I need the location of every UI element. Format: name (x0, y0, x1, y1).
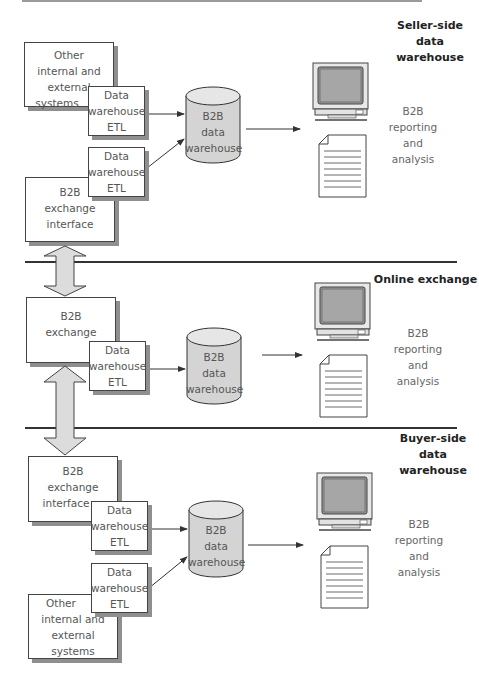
warehouse-label: B2B data warehouse (188, 522, 244, 570)
section-divider (25, 427, 457, 429)
reporting-label: B2B reporting and analysis (389, 516, 449, 580)
flow-arrow (147, 139, 184, 168)
flow-arrow (149, 557, 187, 588)
bidirectional-arrow-icon (44, 246, 86, 296)
database-cylinder-icon: B2B data warehouse (186, 327, 242, 405)
database-cylinder-icon: B2B data warehouse (188, 500, 244, 578)
report-document-icon (319, 354, 369, 418)
etl-box: Data warehouse ETL (91, 501, 148, 551)
reporting-label: B2B reporting and analysis (383, 103, 443, 167)
etl-box: Data warehouse ETL (89, 341, 146, 391)
report-document-icon (320, 545, 370, 609)
etl-box: Data warehouse ETL (88, 147, 145, 197)
etl-box: Data warehouse ETL (91, 563, 148, 613)
top-rule (22, 0, 422, 2)
section-title-seller-side: Seller-side data warehouse (384, 18, 476, 66)
report-document-icon (318, 134, 368, 198)
section-divider (25, 261, 457, 263)
warehouse-label: B2B data warehouse (186, 349, 242, 397)
database-cylinder-icon: B2B data warehouse (185, 86, 241, 164)
computer-monitor-icon (316, 472, 374, 532)
etl-box: Data warehouse ETL (88, 86, 145, 136)
computer-monitor-icon (314, 282, 372, 342)
warehouse-label: B2B data warehouse (185, 108, 241, 156)
reporting-label: B2B reporting and analysis (388, 325, 448, 389)
bidirectional-arrow-icon (44, 366, 86, 455)
computer-monitor-icon (312, 62, 370, 122)
section-title-buyer-side: Buyer-side data warehouse (390, 431, 476, 479)
section-title-online-exchange: Online exchange (372, 272, 479, 288)
